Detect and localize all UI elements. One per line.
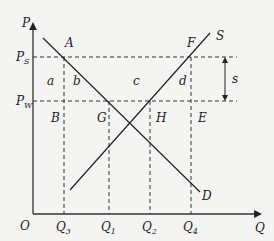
point-g-label: G bbox=[97, 111, 107, 125]
q3-label: Q3 bbox=[56, 220, 71, 236]
pw-label: PW bbox=[15, 94, 33, 110]
point-b-label: B bbox=[50, 111, 60, 125]
point-f-label: F bbox=[186, 36, 196, 50]
area-d-label: d bbox=[179, 74, 187, 88]
supply-label: S bbox=[216, 29, 224, 43]
demand-label: D bbox=[201, 189, 212, 203]
q2-label: Q2 bbox=[142, 220, 157, 236]
origin-label: O bbox=[20, 219, 30, 233]
area-b-label: b bbox=[73, 74, 81, 88]
arrow-down-icon bbox=[222, 95, 228, 101]
q4-label: Q4 bbox=[183, 220, 198, 236]
x-axis-label: Q bbox=[255, 221, 265, 235]
q1-label: Q1 bbox=[101, 220, 116, 236]
point-h-label: H bbox=[155, 111, 167, 125]
area-c-label: c bbox=[133, 74, 140, 88]
point-e-label: E bbox=[197, 111, 207, 125]
y-axis-label: P bbox=[21, 16, 31, 30]
subsidy-label: s bbox=[232, 72, 238, 86]
point-a-label: A bbox=[64, 36, 74, 50]
area-a-label: a bbox=[47, 74, 54, 88]
ps-label: PS bbox=[15, 50, 30, 66]
demand-curve bbox=[43, 38, 200, 192]
supply-demand-diagram: P Q O PS PW Q3 Q1 Q2 Q4 D S A F B G H E … bbox=[0, 0, 274, 241]
arrow-up-icon bbox=[222, 57, 228, 63]
